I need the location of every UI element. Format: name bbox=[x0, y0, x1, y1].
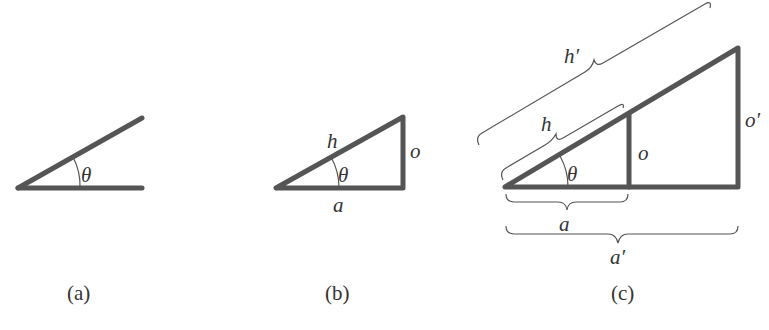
similar-triangles-figure: θ (a) θ h o a (b) θ o o′ a a′ h h′ (c) bbox=[0, 0, 769, 330]
panel-caption: (c) bbox=[611, 281, 634, 305]
adjacent-small-label: a bbox=[559, 212, 570, 236]
hypotenuse-label: h bbox=[327, 129, 338, 153]
angle-label: θ bbox=[81, 163, 91, 187]
opposite-small-label: o bbox=[638, 141, 649, 165]
opposite-label: o bbox=[410, 139, 421, 163]
adjacent-label: a bbox=[333, 193, 344, 217]
angle-arc bbox=[73, 157, 80, 188]
hypotenuse-small-brace bbox=[502, 104, 624, 180]
large-triangle bbox=[505, 48, 738, 187]
panel-caption: (b) bbox=[325, 281, 350, 305]
panel-c: θ o o′ a a′ h h′ (c) bbox=[478, 3, 761, 305]
panel-caption: (a) bbox=[67, 281, 90, 305]
hypotenuse-small-label: h bbox=[541, 112, 552, 136]
adjacent-large-brace bbox=[506, 226, 738, 243]
adjacent-large-label: a′ bbox=[610, 245, 626, 269]
opposite-large-label: o′ bbox=[745, 108, 761, 132]
hypotenuse-large-brace bbox=[478, 3, 711, 145]
panel-a: θ (a) bbox=[18, 118, 142, 305]
panel-b: θ h o a (b) bbox=[276, 117, 421, 305]
angle-label: θ bbox=[567, 162, 577, 186]
adjacent-small-brace bbox=[506, 194, 628, 210]
hypotenuse-large-label: h′ bbox=[564, 44, 580, 68]
angle-label: θ bbox=[338, 163, 348, 187]
